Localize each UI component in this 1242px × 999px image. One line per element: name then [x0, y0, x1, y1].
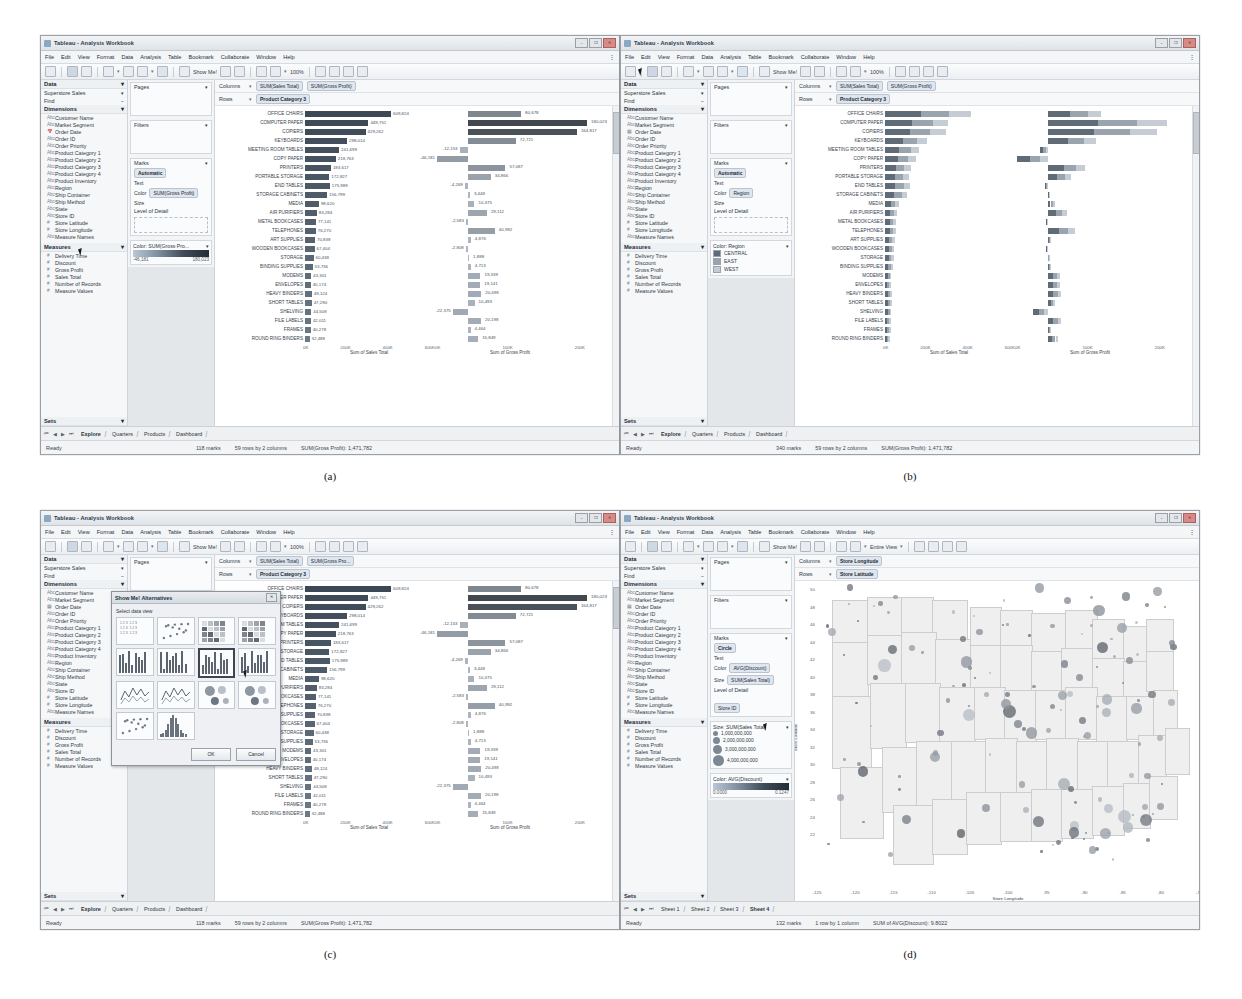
- profit-bar[interactable]: [468, 802, 471, 808]
- chevron-down-icon[interactable]: ▾: [121, 418, 124, 424]
- chart-thumbnail-bar-chart-selected[interactable]: [198, 648, 236, 678]
- menu-format[interactable]: Format: [677, 529, 695, 535]
- duplicate-icon[interactable]: [683, 541, 694, 552]
- bar-segment[interactable]: [1047, 183, 1048, 189]
- labels-icon[interactable]: [850, 66, 861, 77]
- bar-segment[interactable]: [893, 228, 896, 234]
- worksheet-a[interactable]: OFFICE CHAIRS609,82480,678COMPUTER PAPER…: [215, 106, 619, 426]
- legend-item-central[interactable]: CENTRAL: [713, 249, 789, 257]
- chevron-down-icon[interactable]: ▾: [701, 418, 704, 424]
- bar-row[interactable]: ENVELOPES40,17419,141: [215, 280, 619, 289]
- bar-segment[interactable]: [1098, 120, 1137, 126]
- map-data-point[interactable]: [1118, 810, 1131, 823]
- chart-thumbnail-area-chart[interactable]: [157, 681, 195, 709]
- map-data-point[interactable]: [1096, 705, 1099, 708]
- bar-segment[interactable]: [1048, 210, 1056, 216]
- color-pill[interactable]: SUM(Gross Profit): [149, 188, 198, 198]
- bar-segment[interactable]: [894, 210, 897, 216]
- chevron-down-icon[interactable]: ▾: [249, 97, 252, 102]
- find-field[interactable]: Find −: [41, 97, 127, 105]
- zoom-level-label[interactable]: 100%: [870, 69, 884, 75]
- menu-window[interactable]: Window: [256, 54, 276, 60]
- sales-bar[interactable]: [305, 586, 391, 592]
- profit-bar[interactable]: [468, 336, 479, 342]
- chevron-down-icon[interactable]: ▾: [697, 544, 700, 549]
- sales-bar[interactable]: [305, 784, 311, 790]
- minimize-button[interactable]: –: [575, 38, 588, 48]
- bar-row[interactable]: PRINTERS: [795, 163, 1199, 172]
- columns-pill-sales[interactable]: SUM(Sales Total): [836, 81, 883, 91]
- dimension-customer-name[interactable]: AbcCustomer Name: [41, 114, 127, 121]
- menu-data[interactable]: Data: [701, 54, 713, 60]
- close-button[interactable]: ✕: [1183, 513, 1196, 523]
- map-data-point[interactable]: [1090, 596, 1093, 599]
- show-me-label[interactable]: Show Me!: [773, 69, 797, 75]
- first-sheet-button[interactable]: ⏮: [623, 430, 630, 437]
- map-data-point[interactable]: [1050, 704, 1055, 709]
- profit-bar[interactable]: [468, 129, 577, 135]
- scrollbar-thumb[interactable]: [1193, 112, 1199, 154]
- level-of-detail-dropzone[interactable]: Store ID: [711, 694, 791, 716]
- map-data-point[interactable]: [1028, 634, 1030, 636]
- sales-bar[interactable]: [305, 138, 347, 144]
- bar-row[interactable]: SHORT TABLES47,29010,493: [215, 773, 619, 782]
- bar-segment[interactable]: [885, 111, 921, 117]
- level-of-detail-dropzone[interactable]: [134, 217, 208, 233]
- bar-segment[interactable]: [890, 309, 892, 315]
- swap-icon[interactable]: [717, 66, 728, 77]
- bar-row[interactable]: SHORT TABLES47,29010,493: [215, 298, 619, 307]
- last-sheet-button[interactable]: ⏭: [68, 905, 75, 912]
- chevron-down-icon[interactable]: ▾: [121, 90, 124, 96]
- bar-segment[interactable]: [1070, 111, 1088, 117]
- dimension-store-longitude[interactable]: #Store Longitude: [621, 226, 707, 233]
- dimension-product-inventory[interactable]: AbcProduct Inventory: [621, 177, 707, 184]
- ok-button[interactable]: OK: [191, 748, 231, 761]
- bar-row[interactable]: FILE LABELS42,01120,198: [215, 791, 619, 800]
- bar-segment[interactable]: [1017, 156, 1030, 162]
- bar-segment[interactable]: [890, 273, 892, 279]
- bar-segment[interactable]: [1048, 174, 1058, 180]
- pages-dropzone[interactable]: [711, 566, 791, 590]
- columns-pill-sales[interactable]: SUM(Sales Total): [256, 556, 303, 566]
- menu-file[interactable]: File: [625, 529, 634, 535]
- profit-bar[interactable]: [468, 757, 481, 763]
- worksheet-tab-explore[interactable]: Explore: [76, 431, 106, 437]
- profit-bar[interactable]: [465, 183, 468, 189]
- map-data-point[interactable]: [984, 692, 989, 697]
- map-data-point[interactable]: [878, 601, 882, 605]
- sales-bar[interactable]: [305, 748, 311, 754]
- bar-segment[interactable]: [910, 129, 930, 135]
- labels-icon[interactable]: [270, 66, 281, 77]
- profit-bar[interactable]: [468, 282, 481, 288]
- bar-row[interactable]: SHELVING44,508-22,375: [215, 307, 619, 316]
- maximize-button[interactable]: ❐: [589, 513, 602, 523]
- bar-segment[interactable]: [1053, 300, 1055, 306]
- dimension-order-date[interactable]: ▦Order Date: [621, 603, 707, 610]
- show-me-label[interactable]: Show Me!: [193, 544, 217, 550]
- bar-row[interactable]: PRINTERS183,61757,087: [215, 163, 619, 172]
- next-sheet-button[interactable]: ▶: [640, 906, 646, 912]
- chevron-down-icon[interactable]: ▾: [697, 69, 700, 74]
- bar-segment[interactable]: [892, 246, 894, 252]
- dimension-order-priority[interactable]: AbcOrder Priority: [621, 617, 707, 624]
- sales-bar[interactable]: [305, 309, 311, 315]
- map-data-point[interactable]: [1122, 592, 1130, 600]
- dimension-market-segment[interactable]: AbcMarket Segment: [621, 121, 707, 128]
- columns-shelf[interactable]: Columns ▾ SUM(Sales Total) SUM(Gross Pro…: [795, 80, 1199, 93]
- menu-help[interactable]: Help: [863, 54, 875, 60]
- measure-measure-values[interactable]: #Measure Values: [41, 287, 127, 294]
- bar-segment[interactable]: [930, 129, 945, 135]
- chevron-down-icon[interactable]: ▾: [731, 69, 734, 74]
- dimension-ship-method[interactable]: AbcShip Method: [41, 198, 127, 205]
- profit-bar[interactable]: [468, 685, 487, 691]
- dimension-ship-container[interactable]: AbcShip Container: [621, 191, 707, 198]
- bar-row[interactable]: HEAVY BINDERS48,12420,498: [215, 289, 619, 298]
- sets-header[interactable]: Sets ▾: [41, 892, 127, 901]
- zoom-level-label[interactable]: 100%: [290, 544, 304, 550]
- measure-gross-profit[interactable]: #Gross Profit: [621, 266, 707, 273]
- bar-segment[interactable]: [885, 129, 910, 135]
- bar-row[interactable]: KEYBOARDS: [795, 136, 1199, 145]
- filters-dropzone[interactable]: [711, 129, 791, 153]
- bar-segment[interactable]: [895, 201, 898, 207]
- bar-row[interactable]: STORAGE60,4381,888: [215, 253, 619, 262]
